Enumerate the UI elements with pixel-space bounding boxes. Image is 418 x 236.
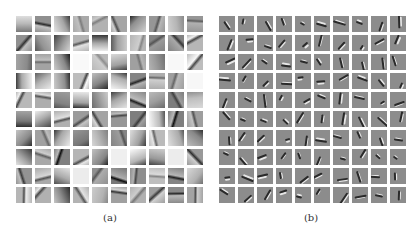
filter-cell [276,130,292,146]
filter-cell [276,73,292,89]
filter-cell [92,130,108,146]
filter-cell [257,168,273,184]
edge-stroke-dark [398,191,400,201]
filter-cell [314,16,330,32]
filter-cell [371,73,387,89]
filter-cell [187,16,203,32]
filter-cell [73,187,89,203]
filter-cell [352,130,368,146]
filter-cell [73,35,89,51]
filter-cell [54,149,70,165]
edge-stroke-dark [241,58,251,69]
filter-cell [390,73,406,89]
filter-cell [219,149,235,165]
filter-cell [73,54,89,70]
filter-cell [54,187,70,203]
filter-cell [371,111,387,127]
filter-cell [295,111,311,127]
filter-cell [238,130,254,146]
filter-cell [352,111,368,127]
filter-cell [187,92,203,108]
filter-cell [187,187,203,203]
filter-cell [187,73,203,89]
filter-cell [276,187,292,203]
panel-label-a: (a) [103,212,117,223]
filter-cell [111,187,127,203]
filter-cell [35,187,51,203]
filter-cell [92,149,108,165]
filter-cell [257,73,273,89]
filter-cell [54,130,70,146]
filter-cell [219,54,235,70]
filter-cell [16,130,32,146]
filter-cell [352,168,368,184]
filter-cell [187,149,203,165]
filter-cell [168,16,184,32]
filter-cell [130,35,146,51]
edge-stroke-dark [338,74,349,81]
edge-stroke-dark [394,138,403,141]
filter-cell [16,54,32,70]
filter-cell [130,92,146,108]
filter-cell [238,54,254,70]
filter-cell [16,73,32,89]
filter-cell [219,35,235,51]
filter-cell [130,54,146,70]
filter-cell [73,168,89,184]
filter-cell [295,54,311,70]
filter-cell [295,168,311,184]
edge-stroke-dark [297,152,301,159]
filter-cell [73,16,89,32]
filter-cell [16,149,32,165]
edge-stroke-dark [296,112,304,124]
filter-cell [111,130,127,146]
panel-label-b: (b) [304,212,318,223]
filter-cell [352,16,368,32]
filter-cell [111,149,127,165]
filter-cell [333,111,349,127]
filter-cell [92,16,108,32]
filter-cell [73,130,89,146]
filter-cell [333,16,349,32]
filter-cell [219,92,235,108]
filter-cell [295,35,311,51]
filter-cell [35,35,51,51]
edge-stroke-dark [228,136,230,145]
filter-cell [276,92,292,108]
filter-cell [314,187,330,203]
filter-cell [257,16,273,32]
filter-cell [314,130,330,146]
filter-cell [390,187,406,203]
filter-cell [390,16,406,32]
filter-cell [54,35,70,51]
filter-grid-a [16,16,203,203]
filter-cell [35,92,51,108]
filter-cell [371,130,387,146]
filter-cell [92,73,108,89]
filter-cell [238,35,254,51]
filter-cell [295,130,311,146]
filter-cell [276,149,292,165]
filter-cell [149,168,165,184]
filter-cell [35,168,51,184]
filter-cell [130,111,146,127]
filter-cell [238,187,254,203]
filter-cell [295,92,311,108]
filter-cell [54,92,70,108]
filter-cell [16,111,32,127]
filter-cell [35,54,51,70]
filter-cell [295,149,311,165]
filter-cell [276,168,292,184]
filter-cell [16,35,32,51]
filter-cell [219,111,235,127]
filter-cell [16,168,32,184]
filter-cell [168,92,184,108]
filter-cell [92,54,108,70]
filter-cell [149,73,165,89]
filter-cell [111,168,127,184]
filter-cell [73,92,89,108]
filter-cell [92,187,108,203]
filter-cell [35,111,51,127]
filter-cell [187,130,203,146]
filter-cell [35,149,51,165]
